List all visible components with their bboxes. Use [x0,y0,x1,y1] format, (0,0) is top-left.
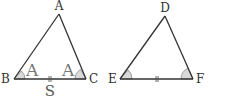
triangle-abc: A B C A A S [1,0,98,96]
asa-diagram: A B C A A S D E F [0,0,238,96]
vertex-b-label: B [1,72,10,86]
angle-label-b: A [25,60,39,80]
vertex-c-label: C [89,72,98,86]
vertex-f-label: F [196,72,204,86]
vertex-d-label: D [160,1,170,15]
side-label: S [45,82,55,96]
vertex-e-label: E [108,72,117,86]
angle-label-c: A [61,60,75,80]
vertex-a-label: A [54,0,64,13]
side-de [120,16,165,79]
side-df [165,16,193,79]
triangle-def: D E F [108,1,204,86]
